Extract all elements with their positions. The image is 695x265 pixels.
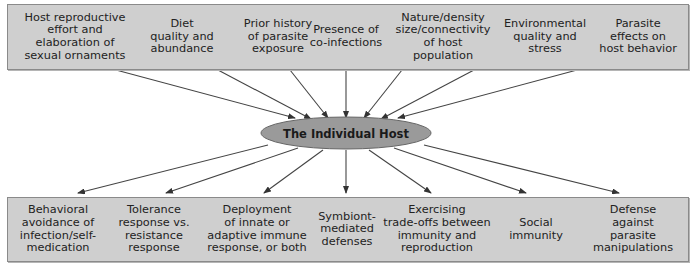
arrow-in-1 bbox=[116, 70, 295, 118]
factor-host-population: Nature/density size/connectivity of host… bbox=[386, 5, 500, 69]
response-trade-offs: Exercising trade-offs between immunity a… bbox=[378, 198, 496, 261]
response-tolerance-resistance: Tolerance response vs. resistance respon… bbox=[106, 198, 202, 261]
factor-environment: Environmental quality and stress bbox=[495, 5, 595, 69]
factor-co-infections: Presence of co-infections bbox=[301, 5, 391, 69]
response-immune-deployment: Deployment of innate or adaptive immune … bbox=[202, 198, 312, 261]
arrow-out-2 bbox=[166, 148, 298, 193]
arrow-in-6 bbox=[381, 70, 474, 119]
response-behavioral-avoidance: Behavioral avoidance of infection/self- … bbox=[8, 198, 108, 261]
influencing-factors-box: Host reproductive effort and elaboration… bbox=[7, 4, 689, 70]
arrow-out-6 bbox=[394, 148, 526, 193]
arrow-out-5 bbox=[369, 150, 431, 193]
response-symbiont-defenses: Symbiont- mediated defenses bbox=[308, 198, 386, 261]
response-anti-manipulation: Defense against parasite manipulations bbox=[578, 198, 688, 261]
factor-diet: Diet quality and abundance bbox=[132, 5, 232, 69]
response-social-immunity: Social immunity bbox=[494, 198, 578, 261]
factor-parasite-effects: Parasite effects on host behavior bbox=[588, 5, 688, 69]
arrow-out-7 bbox=[424, 145, 619, 193]
arrow-in-2 bbox=[218, 70, 311, 119]
factor-reproductive-effort: Host reproductive effort and elaboration… bbox=[8, 5, 142, 69]
arrow-in-7 bbox=[398, 70, 577, 118]
individual-host-label: The Individual Host bbox=[261, 124, 431, 143]
arrow-out-1 bbox=[78, 145, 268, 193]
host-responses-box: Behavioral avoidance of infection/self- … bbox=[7, 197, 689, 262]
